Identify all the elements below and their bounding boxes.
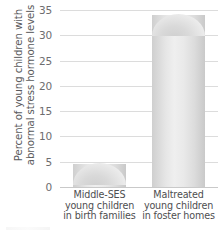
x-category-label: Maltreatedyoung childrenin foster homes	[139, 190, 218, 230]
y-tick-label: 15	[39, 105, 52, 117]
bar-cylinder-top	[152, 14, 205, 36]
scan-artifact	[6, 227, 50, 230]
gridline	[60, 10, 218, 11]
x-category-label: Middle-SESyoung childrenin birth familie…	[60, 190, 139, 230]
x-category-label-line: Middle-SES	[60, 190, 139, 201]
x-axis-category-labels: Middle-SESyoung childrenin birth familie…	[60, 190, 218, 230]
y-tick-label: 25	[39, 55, 52, 67]
y-tick-label: 35	[39, 4, 52, 16]
plot-area	[60, 10, 218, 187]
bar-cylinder-top	[73, 163, 126, 185]
x-category-label-line: in birth families	[60, 211, 139, 222]
y-axis-title-line-1: Percent of young children with	[12, 9, 25, 161]
y-tick-label: 30	[39, 29, 52, 41]
bar-chart: Percent of young children with abnormal …	[0, 0, 222, 235]
x-category-label-line: in foster homes	[139, 211, 218, 222]
y-tick-label: 0	[46, 181, 52, 193]
y-axis-tick-labels: 05101520253035	[26, 10, 52, 187]
y-tick-label: 10	[39, 130, 52, 142]
axis-baseline	[60, 187, 218, 188]
x-category-label-line: Maltreated	[139, 190, 218, 201]
y-tick-label: 20	[39, 80, 52, 92]
bar	[152, 15, 205, 187]
bar	[73, 164, 126, 187]
y-tick-label: 5	[46, 156, 52, 168]
